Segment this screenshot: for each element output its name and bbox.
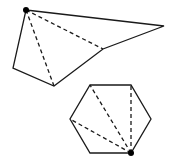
pentagon-diagonal xyxy=(26,10,54,86)
hexagon-outline xyxy=(70,85,151,153)
pentagon xyxy=(13,7,164,86)
hexagon-diagonal xyxy=(70,119,131,153)
pentagon-marked-vertex xyxy=(23,7,29,13)
pentagon-outline xyxy=(13,10,164,86)
hexagon-marked-vertex xyxy=(128,150,134,156)
hexagon xyxy=(70,85,151,156)
hexagon-diagonal xyxy=(90,85,131,153)
diagonals-diagram xyxy=(0,0,174,159)
